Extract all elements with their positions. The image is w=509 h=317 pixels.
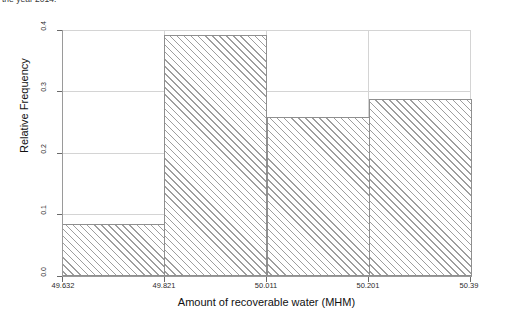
histogram-chart: Relative Frequency 0.0 0.1 0.2 0.3 0.4 — [0, 0, 509, 317]
y-tick-1: 0.1 — [0, 210, 55, 220]
x-axis-title: Amount of recoverable water (MHM) — [62, 296, 471, 308]
histogram-bar — [164, 35, 268, 276]
y-tick-label: 0.3 — [40, 82, 47, 92]
x-tick-label: 50.011 — [255, 281, 277, 290]
y-tick-2: 0.2 — [0, 149, 55, 159]
y-axis-line — [62, 30, 63, 277]
x-tick-label: 50.201 — [357, 281, 380, 290]
y-axis-title: Relative Frequency — [18, 58, 30, 153]
y-tick-label: 0.0 — [40, 267, 47, 277]
x-tick-label: 49.632 — [52, 281, 75, 290]
histogram-bar — [62, 224, 165, 276]
y-tick-label: 0.4 — [40, 21, 47, 31]
y-tick-3: 0.3 — [0, 87, 55, 97]
plot-area — [62, 30, 471, 276]
y-tick-0: 0.0 — [0, 272, 55, 282]
y-tick-4: 0.4 — [0, 26, 55, 36]
y-tick-label: 0.2 — [40, 144, 47, 154]
histogram-bar — [369, 99, 472, 276]
histogram-bar — [267, 117, 371, 276]
x-tick-label: 50.39 — [460, 281, 479, 290]
y-tick-label: 0.1 — [40, 205, 47, 215]
x-axis-line — [62, 276, 472, 277]
x-tick-label: 49.821 — [153, 281, 176, 290]
